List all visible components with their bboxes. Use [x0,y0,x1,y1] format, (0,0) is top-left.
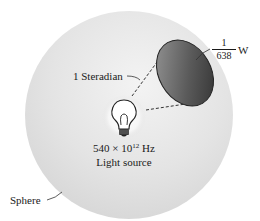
frequency-label: 540 × 1012 Hz [84,143,164,154]
steradian-label: 1 Steradian [73,71,123,82]
light-bulb-icon [102,95,146,139]
light-source-label: Light source [84,157,164,168]
sphere-label: Sphere [10,195,41,206]
power-numerator: 1 [212,38,236,50]
diagram-canvas [0,0,260,221]
power-denominator: 638 [212,50,236,61]
power-unit: W [238,45,248,56]
frequency-unit: Hz [139,142,155,154]
power-fraction: 1 638 [212,38,236,61]
frequency-base: 540 × 10 [93,142,132,154]
